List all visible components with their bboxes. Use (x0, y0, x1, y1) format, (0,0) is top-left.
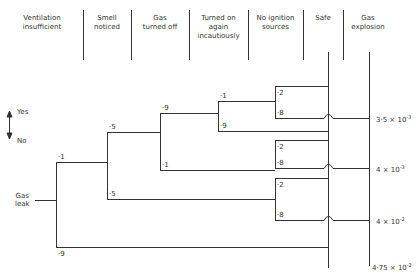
result-exponent: -2 (407, 262, 412, 268)
legend-yes-label: Yes (17, 108, 28, 116)
prob-again-no: ·9 (220, 122, 227, 130)
legend-no-label: No (17, 137, 27, 145)
prob-smell-no: ·5 (109, 190, 116, 198)
prob-off-yes: ·9 (162, 104, 169, 112)
result-mantissa: 3·5 × 10 (376, 116, 406, 124)
result-mantissa: 4·75 × 10 (372, 264, 407, 272)
prob-vent-no: ·9 (58, 250, 65, 258)
prob-smell-yes: ·5 (109, 123, 116, 131)
result-explosion-total: 4·75 × 10-2 (372, 262, 412, 272)
result-exponent: -3 (400, 164, 405, 170)
prob-ignition-a-no: ·8 (277, 109, 284, 117)
result-explosion-1: 3·5 × 10-3 (376, 114, 411, 124)
prob-vent-yes: ·1 (58, 153, 65, 161)
prob-ignition-c-yes: ·2 (277, 181, 284, 189)
result-exponent: -3 (406, 114, 411, 120)
result-mantissa: 4 × 10 (376, 166, 400, 174)
prob-ignition-c-no: ·8 (277, 211, 284, 219)
prob-again-yes: ·1 (220, 92, 227, 100)
result-explosion-2: 4 × 10-3 (376, 164, 405, 174)
root-text: Gas (15, 192, 30, 200)
prob-ignition-b-yes: ·2 (277, 143, 284, 151)
prob-ignition-b-no: ·8 (277, 159, 284, 167)
result-mantissa: 4 × 10 (376, 218, 400, 226)
prob-ignition-a-yes: ·2 (277, 89, 284, 97)
yes-no-arrow-icon (7, 111, 12, 139)
result-exponent: -2 (400, 216, 405, 222)
prob-off-no: ·1 (162, 161, 169, 169)
header-dividers (84, 10, 344, 60)
result-explosion-3: 4 × 10-2 (376, 216, 405, 226)
root-text: leak (15, 200, 30, 208)
root-gas-leak-label: Gas leak (15, 192, 30, 208)
event-tree-lines (0, 0, 419, 274)
